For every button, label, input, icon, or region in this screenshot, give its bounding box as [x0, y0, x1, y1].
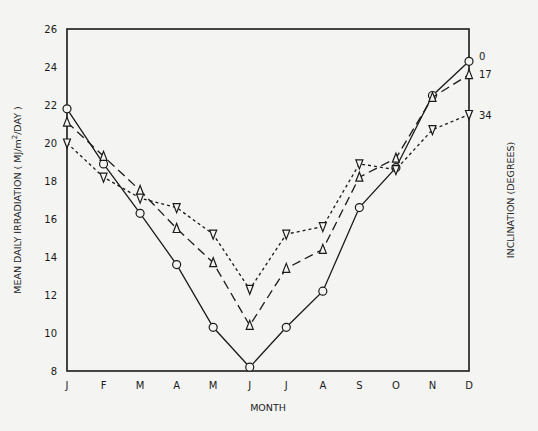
x-tick-label: M [209, 380, 218, 391]
triangle-down-marker [466, 111, 473, 120]
triangle-down-marker [64, 139, 71, 148]
triangle-up-marker [283, 263, 290, 272]
plot-frame [67, 29, 469, 371]
circle-marker [282, 323, 290, 331]
triangle-down-marker [173, 204, 180, 213]
x-tick-label: J [247, 380, 251, 391]
triangle-up-marker [64, 117, 71, 126]
triangle-up-marker [100, 151, 107, 160]
y-tick-label: 12 [44, 290, 57, 301]
triangle-up-marker [173, 224, 180, 233]
circle-marker [209, 323, 217, 331]
x-axis-ticks: JFMAMJJASOND [65, 380, 474, 391]
x-tick-label: A [319, 380, 326, 391]
y-tick-label: 22 [44, 100, 57, 111]
x-tick-label: F [101, 380, 107, 391]
inclination-labels: 01734 [479, 51, 492, 120]
y-tick-label: 8 [51, 366, 57, 377]
y-axis-ticks: 8101214161820222426 [44, 24, 57, 377]
circle-marker [355, 204, 363, 212]
x-tick-label: M [136, 380, 145, 391]
triangle-down-marker [246, 285, 253, 294]
triangle-down-marker [137, 194, 144, 203]
circle-marker [319, 287, 327, 295]
series-0-deg [63, 57, 473, 371]
triangle-up-marker [137, 186, 144, 195]
series-line [67, 115, 469, 290]
x-tick-label: N [429, 380, 436, 391]
plot-area-border [67, 29, 469, 371]
circle-marker [173, 261, 181, 269]
triangle-up-marker [210, 258, 217, 267]
x-axis-label: MONTH [250, 402, 286, 413]
triangle-down-marker [210, 230, 217, 239]
y-tick-label: 24 [44, 62, 57, 73]
triangle-up-marker [466, 70, 473, 79]
inclination-label-17: 17 [479, 69, 492, 80]
triangle-down-marker [356, 160, 363, 169]
x-tick-label: J [284, 380, 288, 391]
x-tick-label: D [465, 380, 473, 391]
series-line [67, 61, 469, 367]
series-17-deg [64, 70, 473, 330]
x-tick-label: O [392, 380, 400, 391]
inclination-label-34: 34 [479, 110, 492, 121]
y-tick-label: 16 [44, 214, 57, 225]
inclination-label-0: 0 [479, 51, 485, 62]
series-line [67, 75, 469, 326]
y-axis-label: MEAN DAILY IRRADIATION ( MJ/m2/DAY ) [11, 106, 23, 294]
triangle-down-marker [100, 173, 107, 182]
circle-marker [100, 160, 108, 168]
y-tick-label: 10 [44, 328, 57, 339]
x-tick-label: A [173, 380, 180, 391]
y-tick-label: 26 [44, 24, 57, 35]
right-axis-label: INCLINATION (DEGREES) [505, 142, 516, 258]
circle-marker [465, 57, 473, 65]
triangle-up-marker [319, 244, 326, 253]
y-tick-label: 18 [44, 176, 57, 187]
irradiation-chart: 8101214161820222426 JFMAMJJASOND 01734 M… [0, 0, 538, 431]
circle-marker [246, 363, 254, 371]
x-tick-label: J [65, 380, 69, 391]
triangle-up-marker [356, 172, 363, 181]
circle-marker [136, 209, 144, 217]
x-tick-label: S [356, 380, 362, 391]
y-tick-label: 20 [44, 138, 57, 149]
triangle-down-marker [429, 126, 436, 135]
circle-marker [63, 105, 71, 113]
data-series [63, 57, 473, 371]
y-tick-label: 14 [44, 252, 57, 263]
